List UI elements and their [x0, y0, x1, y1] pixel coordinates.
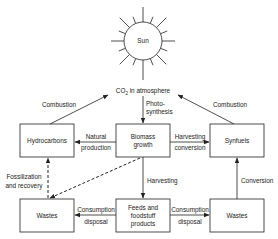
fossilization-label-1: Fossilization: [6, 173, 42, 180]
photosynthesis-label-2: synthesis: [146, 108, 173, 116]
feeds-label-1: Feeds and: [128, 204, 159, 211]
natural-production-label-2: production: [81, 144, 111, 152]
harvesting-conversion-label-1: Harvesting: [175, 133, 206, 141]
carbon-cycle-diagram: Sun CO2 in atmosphere Hydrocarbons Bioma…: [0, 0, 278, 239]
consumption-right-label-1: Consumption: [171, 206, 209, 214]
harvesting-conversion-label-2: conversion: [175, 144, 206, 151]
biomass-label-1: Biomass: [131, 133, 156, 140]
consumption-left-label-1: Consumption: [77, 206, 115, 214]
combustion-right-label: Combustion: [213, 101, 248, 108]
feeds-label-3: products: [131, 220, 156, 228]
combustion-left-label: Combustion: [42, 101, 77, 108]
combustion-right-arrow: [178, 95, 234, 124]
wastes-left-label: Wastes: [36, 212, 57, 219]
consumption-right-label-2: disposal: [178, 218, 201, 226]
combustion-left-arrow: [50, 95, 108, 124]
co2-atmosphere-label: CO2 in atmosphere: [116, 87, 171, 96]
biomass-to-wastes-dashed-arrow: [50, 158, 140, 198]
biomass-label-2: growth: [133, 141, 153, 149]
synfuels-label: Synfuels: [225, 137, 250, 145]
harvesting-label: Harvesting: [147, 177, 178, 185]
feeds-label-2: foodstuff: [131, 212, 156, 219]
sun-label: Sun: [137, 37, 149, 44]
consumption-left-label-2: disposal: [84, 218, 107, 226]
hydrocarbons-label: Hydrocarbons: [27, 137, 67, 145]
natural-production-label-1: Natural: [86, 133, 107, 140]
fossilization-label-2: and recovery: [6, 182, 44, 190]
conversion-label: Conversion: [241, 177, 274, 184]
wastes-right-label: Wastes: [226, 212, 247, 219]
photosynthesis-label-1: Photo-: [146, 100, 165, 107]
